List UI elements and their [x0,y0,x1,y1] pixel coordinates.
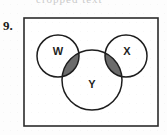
venn-diagram-svg: W X Y [0,0,167,135]
set-label-y: Y [88,78,96,90]
set-label-x: X [123,45,131,57]
venn-diagram-figure: cropped text 9. W [0,0,167,135]
set-label-w: W [53,45,64,57]
